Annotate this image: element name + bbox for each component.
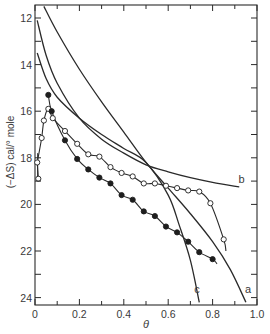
open-circle-marker: [50, 116, 55, 121]
curve-label-c: c: [194, 283, 200, 295]
x-axis-label: θ: [143, 318, 149, 330]
curve-labels: abc: [194, 173, 252, 295]
filled-circle-marker: [97, 175, 102, 180]
open-circle-marker: [86, 152, 91, 157]
curve-b: [37, 20, 239, 187]
y-tick-label: 14: [20, 59, 32, 71]
filled-circle-marker: [130, 197, 135, 202]
open-circle-marker: [152, 181, 157, 186]
x-tick-label: 0.8: [205, 308, 220, 320]
open-circle-marker: [39, 135, 44, 140]
filled-circle-marker: [75, 156, 80, 161]
open-circle-marker: [163, 183, 168, 188]
open-circle-marker: [119, 170, 124, 175]
y-tick-label: 22: [20, 245, 32, 257]
entropy-chart: 00.20.40.60.81.0 12141618202224 abc θ (−…: [0, 0, 270, 334]
open-circle-marker: [108, 165, 113, 170]
filled-circle-marker: [163, 224, 168, 229]
x-tick-label: 0: [32, 308, 38, 320]
y-tick-label: 20: [20, 198, 32, 210]
open-circle-marker: [35, 160, 40, 165]
open-circle-marker: [174, 185, 179, 190]
filled-circle-marker: [186, 239, 191, 244]
filled-circle-marker: [46, 92, 51, 97]
filled-circle-marker: [210, 257, 215, 262]
data-markers: [35, 92, 227, 261]
x-tick-label: 1.0: [250, 308, 265, 320]
y-tick-label: 18: [20, 152, 32, 164]
open-circle-marker: [186, 188, 191, 193]
filled-circle-marker: [197, 250, 202, 255]
open-circle-marker: [208, 201, 213, 206]
y-tick-label: 24: [20, 292, 32, 304]
open-circle-marker: [97, 154, 102, 159]
open-circle-marker: [197, 189, 202, 194]
open-circle-marker: [221, 237, 226, 242]
y-axis-label: (−ΔS) cal/° mole: [5, 115, 16, 188]
x-tick-label: 0.6: [161, 308, 176, 320]
y-tick-label: 12: [20, 12, 32, 24]
open-circle-marker: [62, 128, 67, 133]
curve-label-a: a: [245, 283, 252, 295]
y-axis-ticks: 12141618202224: [20, 12, 257, 304]
filled-circle-marker: [152, 213, 157, 218]
x-axis-ticks: 00.20.40.60.81.0: [32, 5, 264, 320]
filled-circle-marker: [119, 192, 124, 197]
filled-circle-marker: [174, 230, 179, 235]
filled-circle-marker: [108, 181, 113, 186]
y-tick-label: 16: [20, 105, 32, 117]
open-circle-marker: [130, 174, 135, 179]
filled-circle-marker: [62, 138, 67, 143]
filled-circle-marker: [86, 167, 91, 172]
open-circle-marker: [41, 118, 46, 123]
open-circle-marker: [36, 176, 41, 181]
open-circle-marker: [75, 141, 80, 146]
x-tick-label: 0.4: [116, 308, 131, 320]
open-circle-marker: [141, 181, 146, 186]
x-tick-label: 0.2: [72, 308, 87, 320]
filled-circle-marker: [49, 109, 54, 114]
curve-label-b: b: [238, 173, 244, 185]
filled-circle-marker: [141, 209, 146, 214]
